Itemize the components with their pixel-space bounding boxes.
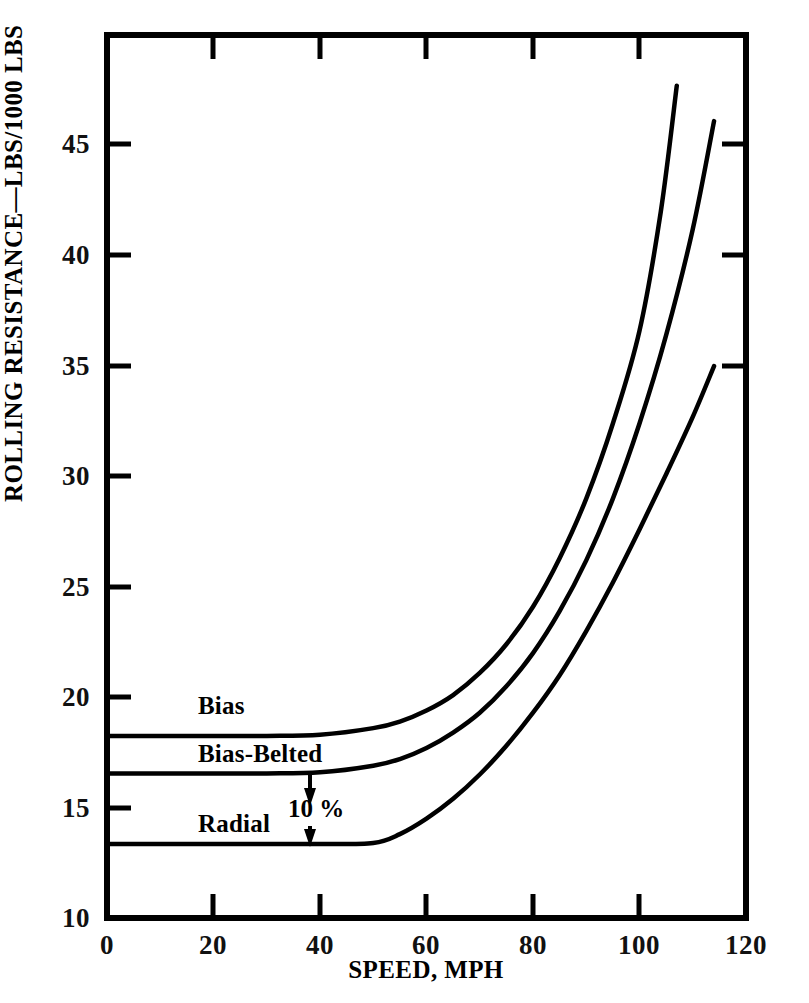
y-axis-title: ROLLING RESISTANCE—LBS/1000 LBS (0, 24, 28, 501)
series-curve-bias (107, 86, 677, 736)
y-axis-title-text: ROLLING RESISTANCE—LBS/1000 LBS (0, 24, 27, 501)
x-axis-ticks (213, 894, 639, 918)
x-axis-title: SPEED, MPH (348, 956, 503, 984)
y-tick-label-20: 20 (28, 682, 90, 713)
y-tick-label-15: 15 (28, 793, 90, 824)
y-tick-label-25: 25 (28, 572, 90, 603)
y-axis-ticks (107, 144, 131, 808)
right-axis-ticks (722, 144, 746, 366)
x-tick-label-20: 20 (199, 930, 227, 961)
series-label-bias: Bias (198, 692, 245, 720)
x-tick-label-40: 40 (306, 930, 334, 961)
y-tick-label-40: 40 (28, 240, 90, 271)
chart-figure: 45 40 35 30 25 20 15 10 0 20 40 60 80 10… (0, 0, 809, 1003)
x-tick-label-80: 80 (519, 930, 547, 961)
y-tick-label-10: 10 (28, 903, 90, 934)
annotation-ten-percent: 10 % (288, 795, 344, 823)
top-axis-ticks (213, 35, 639, 59)
series-label-bias-belted: Bias-Belted (198, 740, 322, 768)
y-tick-label-45: 45 (28, 129, 90, 160)
series-curve-bias-belted (107, 121, 714, 773)
y-tick-label-35: 35 (28, 351, 90, 382)
x-tick-label-120: 120 (725, 930, 767, 961)
x-tick-label-100: 100 (618, 930, 660, 961)
x-tick-label-0: 0 (100, 930, 114, 961)
axis-frame (107, 35, 746, 918)
series-curves (107, 86, 714, 844)
series-label-radial: Radial (198, 810, 270, 838)
y-tick-label-30: 30 (28, 461, 90, 492)
plot-canvas (0, 0, 809, 1003)
